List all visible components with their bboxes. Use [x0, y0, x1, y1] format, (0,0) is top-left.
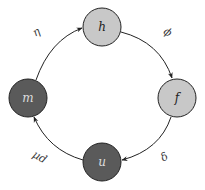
- edge-label-mu-d: μd: [30, 148, 49, 166]
- edge-label-delta: δ: [158, 149, 171, 164]
- edge-label-phi: ϕ: [161, 24, 174, 39]
- node-h: h: [83, 8, 121, 46]
- edge-h-to-f: [121, 32, 172, 78]
- node-m-label: m: [22, 91, 33, 105]
- edge-m-to-h: [36, 28, 82, 80]
- edge-label-eta: η: [30, 24, 43, 39]
- node-f: f: [158, 79, 196, 117]
- node-h-label: h: [98, 20, 106, 34]
- node-u: u: [83, 143, 121, 181]
- node-m: m: [9, 79, 47, 117]
- node-u-label: u: [98, 155, 106, 169]
- cycle-diagram: η ϕ δ μd h f u m: [0, 0, 205, 190]
